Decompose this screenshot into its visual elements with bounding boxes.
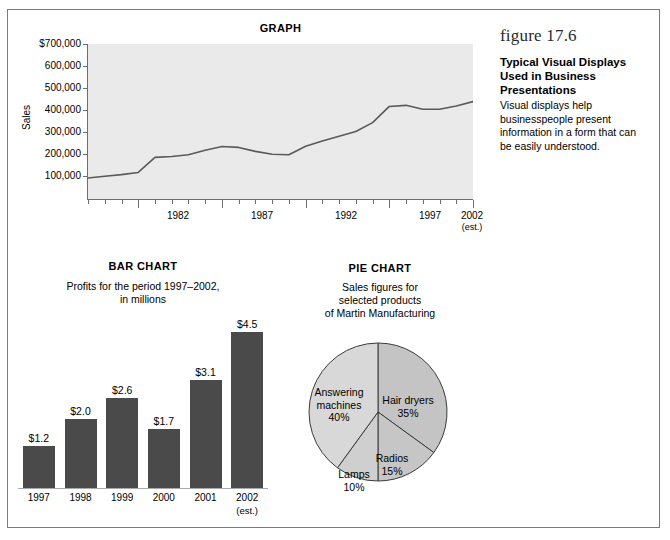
x-tick-mark-minor: [322, 200, 323, 204]
pie-label-hair-dryers: Hair dryers 35%: [367, 394, 449, 419]
caption-heading: Typical Visual Displays Used in Business…: [500, 55, 650, 97]
pie-label-lamps-pct: 10%: [343, 481, 364, 493]
line-chart-series: [88, 44, 473, 199]
x-tick-mark-minor: [205, 200, 206, 204]
y-tick-label: 200,000: [19, 149, 81, 159]
pie-label-answering-name-1: Answering: [314, 386, 363, 398]
bar-category-label: 1997: [17, 492, 61, 503]
x-tick-mark-major: [222, 200, 223, 208]
x-tick-mark-minor: [155, 200, 156, 204]
y-tick-label: 500,000: [19, 83, 81, 93]
bar-value-label: $2.0: [59, 405, 103, 417]
figure-number: figure 17.6: [500, 26, 650, 46]
bar-category-label: 1999: [100, 492, 144, 503]
bar-category-label: 2000: [142, 492, 186, 503]
x-tick-label: 1997: [408, 210, 452, 221]
x-tick-mark-minor: [289, 200, 290, 204]
bar-chart-baseline: [18, 488, 268, 489]
pie-label-hair-dryers-name: Hair dryers: [382, 394, 433, 406]
pie-subtitle-line-2: selected products: [339, 294, 421, 306]
pie-label-radios-name: Radios: [376, 452, 409, 464]
bar-value-label: $4.5: [225, 318, 269, 330]
line-chart-y-axis-label: Sales: [21, 88, 32, 148]
x-tick-label: 2002: [450, 210, 494, 221]
bar-value-label: $3.1: [184, 366, 228, 378]
x-tick-mark-minor: [272, 200, 273, 204]
bar-chart-title: BAR CHART: [18, 260, 268, 272]
figure-caption: figure 17.6 Typical Visual Displays Used…: [500, 26, 650, 153]
bar-subtitle-line-1: Profits for the period 1997–2002,: [67, 280, 220, 292]
bar-chart-subtitle: Profits for the period 1997–2002, in mil…: [18, 280, 268, 306]
x-tick-sublabel: (est.): [450, 222, 494, 232]
x-tick-mark-minor: [373, 200, 374, 204]
bar-chart-bar: [106, 398, 138, 488]
y-tick-label: $700,000: [19, 39, 81, 49]
y-tick-label: 600,000: [19, 61, 81, 71]
x-tick-mark-minor: [105, 200, 106, 204]
bar-category-label: 2001: [184, 492, 228, 503]
pie-label-lamps-name: Lamps: [338, 468, 370, 480]
x-tick-mark-minor: [440, 200, 441, 204]
x-tick-mark-major: [306, 200, 307, 208]
x-tick-label: 1982: [156, 210, 200, 221]
pie-label-answering-name-2: machines: [317, 399, 362, 411]
pie-subtitle-line-1: Sales figures for: [342, 281, 418, 293]
pie-label-answering-machines: Answering machines 40%: [306, 386, 372, 424]
x-tick-mark-minor: [188, 200, 189, 204]
bar-value-label: $1.7: [142, 415, 186, 427]
bar-subtitle-line-2: in millions: [120, 293, 166, 305]
x-tick-label: 1987: [240, 210, 284, 221]
bar-category-label: 1998: [59, 492, 103, 503]
pie-subtitle-line-3: of Martin Manufacturing: [325, 307, 435, 319]
x-tick-label: 1992: [324, 210, 368, 221]
x-tick-mark-minor: [88, 200, 89, 204]
x-tick-mark-minor: [356, 200, 357, 204]
bar-chart-bar: [23, 446, 55, 488]
x-tick-mark-minor: [239, 200, 240, 204]
bar-category-sublabel: (est.): [225, 505, 269, 516]
figure-container: GRAPH Sales $700,000 600,000 500,000 400…: [0, 0, 670, 540]
graph-title: GRAPH: [88, 22, 473, 34]
x-tick-mark-minor: [122, 200, 123, 204]
x-tick-mark-minor: [172, 200, 173, 204]
y-tick-label: 300,000: [19, 127, 81, 137]
pie-label-radios-pct: 15%: [381, 465, 402, 477]
bar-chart-bar: [65, 419, 97, 488]
caption-body: Visual displays help businesspeople pres…: [500, 99, 650, 153]
bar-chart-bar: [148, 429, 180, 488]
y-tick-label: 400,000: [19, 105, 81, 115]
x-tick-mark-minor: [339, 200, 340, 204]
bar-category-label: 2002: [225, 492, 269, 503]
bar-value-label: $2.6: [100, 384, 144, 396]
pie-label-answering-pct: 40%: [328, 411, 349, 423]
pie-label-lamps: Lamps 10%: [332, 468, 376, 493]
x-tick-mark-major: [389, 200, 390, 208]
x-tick-mark-minor: [406, 200, 407, 204]
x-tick-mark-major: [473, 200, 474, 208]
pie-chart-subtitle: Sales figures for selected products of M…: [290, 281, 470, 320]
x-tick-mark-major: [138, 200, 139, 208]
pie-chart-title: PIE CHART: [300, 262, 460, 274]
x-tick-mark-minor: [255, 200, 256, 204]
pie-label-hair-dryers-pct: 35%: [397, 407, 418, 419]
bar-chart-bar: [190, 380, 222, 488]
x-tick-mark-minor: [423, 200, 424, 204]
line-chart-x-axis: [87, 199, 473, 200]
y-tick-label: 100,000: [19, 171, 81, 181]
bar-chart-bar: [231, 332, 263, 488]
bar-value-label: $1.2: [17, 432, 61, 444]
x-tick-mark-minor: [456, 200, 457, 204]
bar-chart-plot-area: [18, 318, 268, 488]
